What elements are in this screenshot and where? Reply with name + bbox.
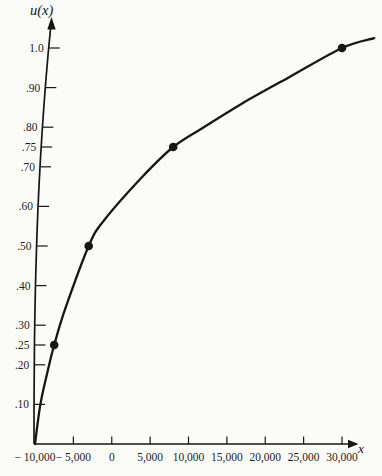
y-tick-label: .75	[22, 141, 37, 153]
utility-curve	[35, 38, 374, 444]
y-axis-title: u(x)	[30, 2, 53, 19]
x-axis-title: x	[358, 441, 364, 457]
y-tick-label: .40	[16, 280, 31, 292]
data-point-marker	[50, 341, 59, 350]
y-tick-label: .30	[15, 319, 30, 331]
x-tick-label: 30,000	[326, 451, 358, 464]
chart-canvas: 1.0.90.80.75.70.60.50.40.30.25.20.10− 10…	[0, 0, 382, 476]
data-point-marker	[84, 242, 93, 251]
y-tick-label: .50	[17, 240, 32, 252]
y-tick-label: .10	[15, 398, 30, 410]
y-tick-label: 1.0	[29, 42, 44, 54]
y-tick-label: .25	[15, 339, 30, 351]
y-tick-label: .60	[19, 200, 34, 212]
x-tick-label: 10,000	[173, 451, 205, 464]
x-tick-label: 15,000	[211, 451, 243, 464]
y-tick-label: .70	[21, 161, 36, 173]
data-point-marker	[338, 44, 347, 53]
x-tick-label: 25,000	[288, 451, 320, 464]
utility-function-chart: 1.0.90.80.75.70.60.50.40.30.25.20.10− 10…	[0, 0, 382, 476]
x-axis-arrowhead-icon	[348, 440, 359, 448]
y-tick-label: .20	[15, 359, 30, 371]
x-tick-label: 0	[109, 451, 115, 463]
x-tick-label: 5,000	[137, 451, 163, 464]
x-tick-label: 20,000	[249, 451, 281, 464]
y-tick-label: .80	[23, 121, 38, 133]
y-tick-label: .90	[26, 82, 41, 94]
data-point-marker	[169, 143, 178, 152]
x-tick-label: − 10,000	[15, 451, 56, 464]
x-tick-label: − 5,000	[56, 451, 91, 464]
